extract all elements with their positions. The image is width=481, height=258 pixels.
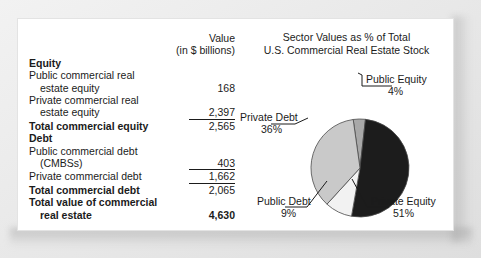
table-row: Total commercial debt 2,065 — [29, 184, 235, 196]
pie-label-name: Private Debt — [240, 111, 298, 123]
sector-values-table: Equity Public commercial real estate equ… — [29, 32, 235, 221]
row-value: 168 — [189, 82, 235, 94]
table-row: Debt — [29, 132, 235, 144]
row-label: (CMBSs) — [29, 157, 83, 169]
row-value: 2,565 — [189, 120, 235, 132]
figure-frame: Value (in $ billions) Equity Public comm… — [0, 0, 481, 258]
pie-label-percent: 4% — [366, 85, 427, 97]
table-row: Equity — [29, 57, 235, 69]
row-label: estate equity — [29, 106, 100, 118]
table-row: Public commercial debt — [29, 145, 235, 157]
row-value: 1,662 — [189, 171, 235, 183]
table-row: estate equity 2,397 — [29, 106, 235, 119]
table-header-spacer — [29, 32, 235, 57]
figure-content-panel: Value (in $ billions) Equity Public comm… — [17, 18, 454, 231]
pie-label-name: Public Equity — [366, 73, 427, 85]
row-label: Equity — [29, 57, 61, 69]
table-row: (CMBSs) 403 — [29, 157, 235, 170]
table-row: real estate 4,630 — [29, 209, 235, 221]
row-label: Total value of commercial — [29, 196, 157, 208]
pie-chart-area: Sector Values as % of Total U.S. Commerc… — [238, 19, 455, 232]
row-value: 2,065 — [189, 184, 235, 196]
row-value: 2,397 — [189, 107, 235, 119]
table-row: Private commercial real — [29, 94, 235, 106]
pie-label-private-debt: Private Debt 36% — [240, 111, 298, 135]
table-row: Public commercial real — [29, 69, 235, 81]
pie-label-percent: 51% — [371, 207, 436, 219]
pie-label-percent: 9% — [257, 207, 311, 219]
table-row: estate equity 168 — [29, 82, 235, 94]
pie-label-percent: 36% — [240, 123, 298, 135]
leader-public-equity-hook — [358, 73, 362, 86]
row-label: Public commercial real — [29, 69, 135, 81]
row-label: estate equity — [29, 82, 100, 94]
pie-label-public-equity: Public Equity 4% — [366, 73, 427, 97]
row-label: Public commercial debt — [29, 145, 138, 157]
row-label: Private commercial debt — [29, 170, 142, 182]
row-label: real estate — [29, 209, 92, 221]
row-label: Private commercial real — [29, 94, 139, 106]
pie-label-public-debt: Public Debt 9% — [257, 195, 311, 219]
row-value: 4,630 — [189, 209, 235, 221]
table-row: Total commercial equity 2,565 — [29, 120, 235, 132]
pie-label-name: Public Debt — [257, 195, 311, 207]
table-row: Private commercial debt 1,662 — [29, 170, 235, 183]
row-label: Total commercial debt — [29, 184, 140, 196]
table-row: Total value of commercial — [29, 196, 235, 208]
pie-label-private-equity: Private Equity 51% — [371, 195, 436, 219]
row-value: 403 — [189, 158, 235, 170]
pie-label-name: Private Equity — [371, 195, 436, 207]
row-label: Total commercial equity — [29, 120, 148, 132]
row-label: Debt — [29, 132, 52, 144]
